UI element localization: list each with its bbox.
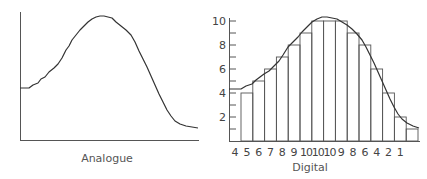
x-tick-label: 2 xyxy=(385,146,392,159)
bar xyxy=(241,93,253,141)
x-tick-label: 7 xyxy=(267,146,274,159)
y-tick-label: 8 xyxy=(219,39,226,52)
analogue-label: Analogue xyxy=(81,152,133,165)
bar xyxy=(359,45,371,141)
analogue-curve xyxy=(20,16,198,128)
bar xyxy=(288,45,300,141)
y-tick-label: 10 xyxy=(212,15,226,28)
figure: Analogue xyxy=(0,0,427,179)
bar xyxy=(324,21,336,141)
x-tick-label: 1 xyxy=(397,146,404,159)
bar xyxy=(253,81,265,141)
x-tick-label: 6 xyxy=(361,146,368,159)
x-tick-label: 9 xyxy=(291,146,298,159)
bar xyxy=(312,21,324,141)
x-tick-label: 4 xyxy=(232,146,239,159)
x-tick-label: 4 xyxy=(373,146,380,159)
x-tick-label: 10 xyxy=(324,146,337,159)
x-tick-label: 9 xyxy=(338,146,345,159)
x-tick-label: 8 xyxy=(279,146,286,159)
bar xyxy=(406,129,418,141)
bar xyxy=(335,21,347,141)
bar xyxy=(383,93,395,141)
bar xyxy=(347,33,359,141)
y-tick-label: 4 xyxy=(219,87,226,100)
bar xyxy=(276,57,288,141)
x-tick-label: 5 xyxy=(243,146,250,159)
bar xyxy=(300,33,312,141)
y-tick-label: 6 xyxy=(219,63,226,76)
x-tick-label: 6 xyxy=(255,146,262,159)
analogue-chart: Analogue xyxy=(20,12,199,165)
digital-label: Digital xyxy=(292,161,328,174)
bar xyxy=(265,69,277,141)
digital-chart: 2 4 6 8 10 4 5 6 7 8 9 10 10 10 9 8 6 4 … xyxy=(212,15,420,174)
y-tick-label: 2 xyxy=(219,111,226,124)
digital-y-ticks xyxy=(229,21,236,129)
x-tick-label: 8 xyxy=(350,146,357,159)
digital-bars xyxy=(241,21,418,141)
